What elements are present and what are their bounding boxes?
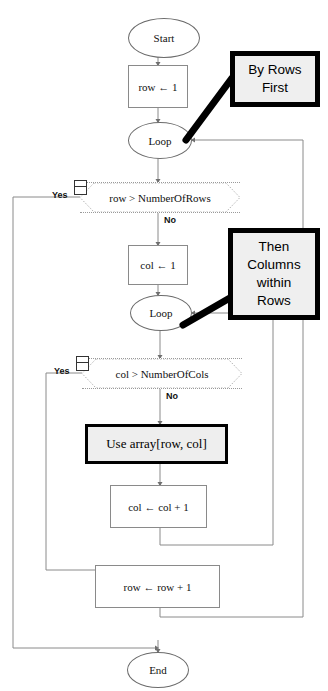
node-start-label: Start — [154, 32, 175, 44]
branch-label-row-yes: Yes — [52, 190, 68, 200]
node-col-test-label: col > NumberOfCols — [116, 368, 209, 380]
node-row-init[interactable]: row ← 1 — [128, 65, 188, 108]
branch-label-row-no: No — [164, 215, 176, 225]
node-col-test[interactable]: col > NumberOfCols — [82, 358, 242, 389]
node-inner-loop-label: Loop — [149, 307, 172, 319]
callout-then-columns-line-2: Columns — [247, 256, 300, 274]
node-use-array-label: Use array[row, col] — [106, 436, 207, 452]
callout-then-columns-line-3: within — [257, 274, 292, 292]
node-row-init-label: row ← 1 — [138, 81, 177, 93]
node-row-increment[interactable]: row ← row + 1 — [95, 565, 220, 608]
node-row-increment-label: row ← row + 1 — [124, 581, 192, 593]
node-outer-loop-label: Loop — [148, 135, 171, 147]
node-col-increment[interactable]: col ← col + 1 — [110, 485, 207, 528]
callout-by-rows-line-1: By Rows — [248, 61, 301, 79]
callout-then-columns-within-rows[interactable]: Then Columns within Rows — [228, 228, 320, 320]
callout-then-columns-line-4: Rows — [257, 292, 291, 310]
branch-label-col-yes: Yes — [54, 366, 70, 376]
callout-by-rows-first[interactable]: By Rows First — [230, 51, 320, 107]
decision-marker-icon — [74, 180, 87, 195]
node-row-test-label: row > NumberOfRows — [109, 192, 211, 204]
branch-label-col-no: No — [166, 391, 178, 401]
decision-marker-icon-2 — [76, 356, 89, 371]
node-use-array[interactable]: Use array[row, col] — [85, 424, 228, 464]
node-col-init[interactable]: col ← 1 — [128, 245, 188, 285]
node-col-init-label: col ← 1 — [140, 259, 175, 271]
flowchart-canvas: Start row ← 1 Loop row > NumberOfRows Ye… — [0, 0, 328, 691]
callout-then-columns-line-1: Then — [259, 238, 290, 256]
node-end-label: End — [149, 664, 167, 676]
callout-by-rows-line-2: First — [262, 79, 288, 97]
node-end[interactable]: End — [127, 652, 189, 688]
node-col-increment-label: col ← col + 1 — [128, 501, 189, 513]
node-row-test[interactable]: row > NumberOfRows — [80, 182, 240, 213]
